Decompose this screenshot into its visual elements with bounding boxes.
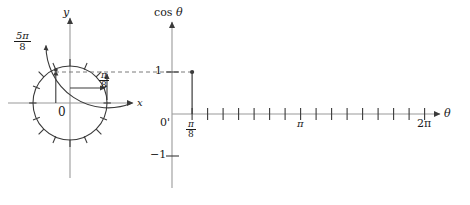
y-tick-label-minus-one: −1 [150,149,166,160]
x-tick-label-pi-over-8: π 8 [186,120,196,139]
cos-text: cos [154,6,172,19]
circle-terminal-point [54,68,58,72]
angle-arc-label: 5π 8 [14,31,31,52]
plotted-point [190,70,194,74]
circle-x-axis-label: x [137,98,143,108]
figure-canvas [0,0,470,205]
circle-y-axis-label: y [63,7,69,18]
graph-y-axis-label: cos θ [154,7,183,18]
pi-over-8-denominator: 8 [186,130,196,139]
x-tick-label-pi: π [297,119,304,129]
y-tick-label-plus-one: 1 [155,65,162,76]
graph-x-axis-label: θ [444,108,451,119]
trig-figure: y x 0 5π 8 π 8 cos θ θ 0' 1 −1 π 8 π 2π [0,0,470,205]
cos-graph-panel [166,22,440,188]
angle-sweep-arc [46,46,132,108]
small-angle-label: π 8 [99,71,109,90]
circle-origin-label: 0 [58,106,66,118]
angle-arc-denominator: 8 [14,42,31,52]
x-tick-label-2pi: 2π [417,118,431,129]
theta-symbol: θ [176,6,183,19]
small-angle-denominator: 8 [99,81,109,90]
graph-origin-label: 0' [160,117,170,128]
